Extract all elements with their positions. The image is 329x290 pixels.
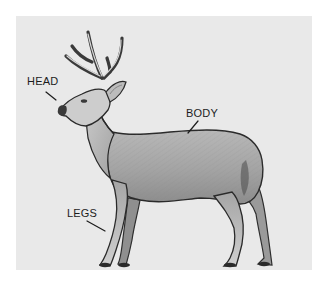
body-label: BODY xyxy=(186,107,218,119)
legs-leader-line xyxy=(87,221,105,231)
legs-label: LEGS xyxy=(67,207,97,219)
deer-illustration xyxy=(0,0,329,290)
head-label: HEAD xyxy=(27,75,58,87)
near-hind-leg xyxy=(214,192,243,266)
deer-head xyxy=(58,81,126,126)
head-leader-line xyxy=(46,92,56,100)
